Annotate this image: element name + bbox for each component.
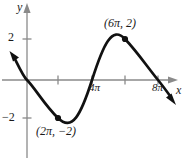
min-point-dot [55, 115, 61, 121]
max-point-label: (6π, 2) [104, 17, 136, 29]
min-point-label: (2π, −2) [36, 125, 76, 137]
y-tick-label-negative-2: −2 [2, 111, 15, 123]
x-axis-label: x [176, 84, 181, 96]
max-point-dot [122, 36, 128, 42]
y-axis-label: y [17, 1, 22, 13]
sinusoid-graph-figure: y x 2 −2 4π 8π (6π, 2) (2π, −2) [0, 0, 189, 163]
x-tick-label-8pi: 8π [152, 82, 163, 93]
sinusoid-curve [10, 35, 177, 123]
y-tick-label-2: 2 [8, 31, 14, 43]
x-tick-label-4pi: 4π [89, 82, 100, 93]
